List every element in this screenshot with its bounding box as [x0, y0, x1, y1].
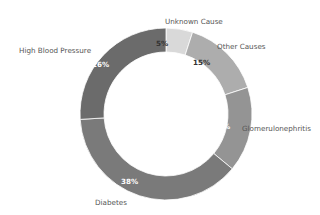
label-glomerulonephritis: Glomerulonephritis — [242, 124, 311, 133]
slice-high-blood-pressure — [80, 28, 166, 119]
pct-other-causes: 15% — [193, 58, 210, 67]
pct-glomerulonephritis: 16% — [213, 122, 230, 131]
donut-chart: Unknown Cause Other Causes Glomeruloneph… — [0, 0, 320, 215]
slice-diabetes — [80, 118, 232, 200]
label-other-causes: Other Causes — [217, 42, 266, 51]
donut-slices — [80, 28, 252, 200]
label-diabetes: Diabetes — [95, 198, 127, 207]
label-unknown-cause: Unknown Cause — [165, 17, 223, 26]
label-high-blood-pressure: High Blood Pressure — [19, 46, 92, 55]
pct-high-blood-pressure: 26% — [92, 60, 109, 69]
pct-unknown-cause: 5% — [156, 39, 168, 48]
pct-diabetes: 38% — [121, 177, 138, 186]
